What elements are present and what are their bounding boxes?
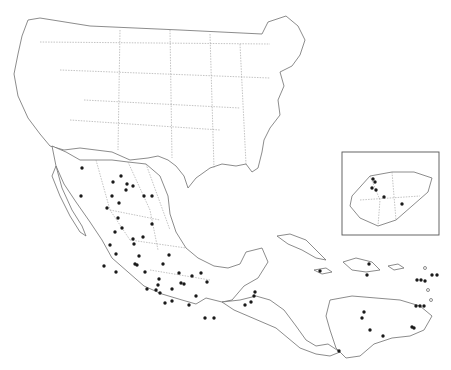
- location-dot: [150, 194, 153, 197]
- location-dot: [212, 316, 215, 319]
- location-dot: [125, 182, 128, 185]
- location-dot: [337, 349, 340, 352]
- location-dot: [318, 269, 321, 272]
- location-dot: [252, 294, 255, 297]
- location-dot: [117, 201, 120, 204]
- map: [0, 0, 451, 370]
- location-dot: [142, 194, 145, 197]
- location-dot: [430, 273, 433, 276]
- location-dot: [170, 299, 173, 302]
- location-dot: [108, 243, 111, 246]
- location-dot: [423, 279, 426, 282]
- location-dot: [179, 281, 182, 284]
- location-dot: [182, 282, 185, 285]
- location-dot: [370, 186, 373, 189]
- location-dot: [381, 334, 384, 337]
- caribbean-islands: [277, 234, 433, 302]
- location-dot: [190, 274, 193, 277]
- location-dot: [119, 174, 122, 177]
- location-dot: [435, 273, 438, 276]
- location-dot: [154, 288, 157, 291]
- location-dot: [145, 287, 148, 290]
- location-dot: [124, 188, 127, 191]
- location-dot: [105, 206, 108, 209]
- location-dot: [374, 188, 377, 191]
- location-dot: [135, 263, 138, 266]
- location-dot: [199, 271, 202, 274]
- location-dot: [163, 301, 166, 304]
- location-dot: [170, 287, 173, 290]
- location-dot: [102, 264, 105, 267]
- location-dot: [113, 230, 116, 233]
- location-dot: [194, 294, 197, 297]
- location-dot: [412, 326, 415, 329]
- location-dot: [132, 242, 135, 245]
- location-dot: [161, 262, 164, 265]
- location-dot: [368, 328, 371, 331]
- location-dot: [360, 316, 363, 319]
- location-dot: [157, 277, 160, 280]
- location-dot: [116, 216, 119, 219]
- location-dot: [143, 270, 146, 273]
- location-dot: [243, 303, 246, 306]
- location-dot: [177, 271, 180, 274]
- location-dot: [414, 304, 417, 307]
- location-dot: [111, 180, 114, 183]
- location-dot: [150, 222, 153, 225]
- location-dot: [373, 180, 376, 183]
- location-dot: [371, 177, 374, 180]
- location-dot: [422, 304, 425, 307]
- location-dot: [362, 310, 365, 313]
- location-dot: [131, 237, 134, 240]
- location-dot: [400, 202, 403, 205]
- location-dot: [167, 253, 170, 256]
- location-dot: [80, 166, 83, 169]
- location-dot: [110, 194, 113, 197]
- central-america-landmass: [222, 296, 432, 358]
- location-dot: [114, 270, 117, 273]
- location-dot: [120, 226, 123, 229]
- location-dot: [365, 273, 368, 276]
- location-dot: [415, 278, 418, 281]
- location-dot: [79, 194, 82, 197]
- location-dot: [249, 300, 252, 303]
- location-dot: [205, 280, 208, 283]
- location-dot: [114, 252, 117, 255]
- location-dot: [158, 291, 161, 294]
- location-dot: [418, 304, 421, 307]
- location-dot: [141, 235, 144, 238]
- location-dot: [382, 195, 385, 198]
- location-dot: [137, 254, 140, 257]
- location-dot: [203, 316, 206, 319]
- location-dot: [187, 303, 190, 306]
- location-dot: [367, 262, 370, 265]
- location-dot: [253, 290, 256, 293]
- guatemala-inset: [342, 152, 439, 235]
- location-dot: [419, 278, 422, 281]
- location-dot: [156, 283, 159, 286]
- location-dot: [131, 184, 134, 187]
